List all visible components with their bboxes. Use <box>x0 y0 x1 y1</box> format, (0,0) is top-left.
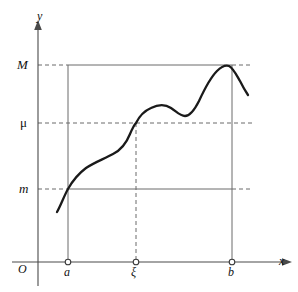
origin-label: O <box>18 263 27 275</box>
y-tick-label-M: M <box>17 58 28 71</box>
y-axis-label: y <box>37 10 42 22</box>
figure-container: y x O M μ m a ξ b <box>0 0 298 292</box>
axis-marker-xi <box>133 259 139 265</box>
axis-marker-a <box>65 259 71 265</box>
x-tick-label-b: b <box>228 266 234 278</box>
y-tick-label-mu: μ <box>20 116 27 129</box>
x-tick-label-xi: ξ <box>131 266 136 278</box>
diagram-canvas <box>0 0 298 292</box>
y-tick-label-m: m <box>19 182 28 195</box>
function-curve <box>57 66 248 212</box>
x-axis-label: x <box>279 255 284 267</box>
axis-marker-b <box>229 259 235 265</box>
x-tick-label-a: a <box>64 266 70 278</box>
